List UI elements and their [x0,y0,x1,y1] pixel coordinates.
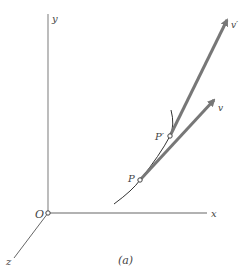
velocity-diagram: y x z O P P′ v v′ (a) [0,0,245,279]
vector-v-prime-label: v′ [231,20,238,30]
point-p-label: P [127,173,135,184]
caption: (a) [118,254,133,267]
point-p [138,178,142,182]
z-axis-label: z [5,256,12,267]
y-axis-label: y [51,13,58,24]
point-p-prime [168,134,172,138]
origin-point [46,211,50,215]
point-p-prime-label: P′ [154,131,165,142]
x-axis-label: x [211,208,217,219]
vector-v [140,100,214,180]
trajectory-curve [114,110,173,204]
vector-v-label: v [218,103,223,113]
origin-label: O [35,208,44,221]
